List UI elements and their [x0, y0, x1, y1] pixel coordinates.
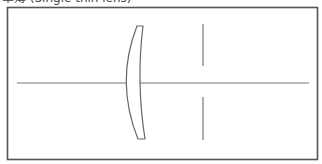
- optical-diagram: [0, 0, 322, 164]
